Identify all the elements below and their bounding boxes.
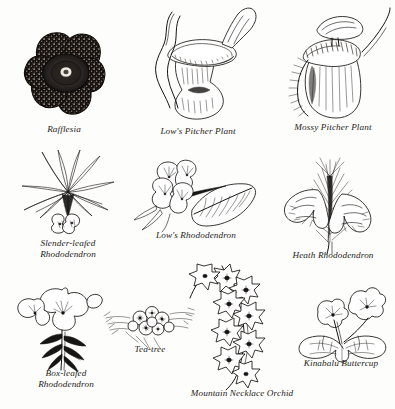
caption-box-leafed-rhododendron: Box-leafed Rhododendron [4, 368, 128, 391]
lows-rhododendron-illustration [126, 158, 266, 234]
kinabalu-buttercup-illustration [288, 286, 394, 364]
lows-pitcher-plant-illustration [128, 4, 268, 124]
mossy-pitcher-plant-illustration [272, 4, 394, 122]
caption-mountain-necklace-orchid: Mountain Necklace Orchid [168, 388, 316, 399]
caption-slender-leafed-rhododendron: Slender-leafed Rhododendron [6, 238, 130, 261]
slender-leafed-rhododendron-illustration [6, 148, 130, 240]
caption-kinabalu-buttercup: Kinabalu Buttercup [288, 358, 394, 369]
caption-lows-pitcher-plant: Low's Pitcher Plant [128, 126, 268, 137]
rafflesia-illustration [8, 18, 120, 122]
heath-rhododendron-illustration [272, 146, 394, 256]
caption-mossy-pitcher-plant: Mossy Pitcher Plant [272, 122, 394, 133]
caption-rafflesia: Rafflesia [8, 124, 120, 135]
caption-heath-rhododendron: Heath Rhododendron [272, 250, 394, 261]
botanical-plate: Rafflesia [0, 0, 395, 409]
caption-lows-rhododendron: Low's Rhododendron [126, 230, 266, 241]
